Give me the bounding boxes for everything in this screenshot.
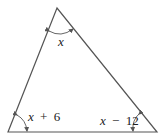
bottom-left-angle-var: x — [27, 109, 34, 124]
bottom-left-angle-const: 6 — [54, 109, 61, 124]
top-angle-var: x — [57, 34, 64, 49]
bottom-right-angle-op: − — [112, 113, 119, 128]
bottom-right-angle-label: x − 12 — [99, 113, 139, 128]
bottom-right-angle-var: x — [99, 113, 106, 128]
bottom-left-angle-arc — [17, 115, 27, 131]
top-angle-label: x — [57, 34, 64, 49]
triangle-diagram: x x + 6 x − 12 — [0, 0, 167, 140]
bottom-left-angle-op: + — [40, 109, 47, 124]
bottom-right-angle-const: 12 — [126, 113, 139, 128]
bottom-left-angle-label: x + 6 — [27, 109, 61, 124]
